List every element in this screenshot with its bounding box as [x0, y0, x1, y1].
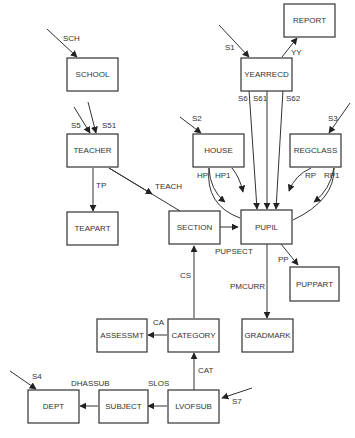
set-label-rp: RP [305, 171, 316, 180]
set-label-s62: S62 [286, 94, 301, 103]
record-assessmt: ASSESSMT [97, 319, 147, 352]
set-label-s5: S5 [71, 121, 81, 130]
set-label-ca: CA [153, 318, 165, 327]
svg-text:TEAPART: TEAPART [74, 224, 110, 233]
set-label-s2: S2 [192, 114, 202, 123]
record-teapart: TEAPART [67, 212, 118, 245]
set-label-s1: S1 [225, 43, 235, 52]
set-label-s7: S7 [232, 397, 242, 406]
record-report: REPORT [284, 4, 335, 37]
set-label-s51: S51 [102, 121, 117, 130]
svg-text:YEARRECD: YEARRECD [244, 70, 289, 79]
record-yearrecd: YEARRECD [241, 58, 292, 91]
svg-text:HOUSE: HOUSE [204, 146, 232, 155]
set-label-s6: S6 [238, 94, 248, 103]
record-puppart: PUPPART [290, 267, 339, 301]
record-pupil: PUPIL [241, 210, 292, 244]
set-label-s3: S3 [328, 114, 338, 123]
set-label-s61: S61 [253, 94, 268, 103]
record-lvofsub: LVOFSUB [168, 390, 219, 423]
svg-text:PUPIL: PUPIL [255, 223, 279, 232]
svg-text:CATEGORY: CATEGORY [171, 331, 216, 340]
set-label-teach: TEACH [155, 182, 182, 191]
set-label-yy: YY [291, 48, 302, 57]
record-teacher: TEACHER [67, 134, 118, 167]
record-gradmark: GRADMARK [242, 319, 293, 352]
svg-text:DEPT: DEPT [43, 402, 64, 411]
svg-text:LVOFSUB: LVOFSUB [175, 402, 212, 411]
set-label-tp: TP [96, 181, 106, 190]
data-structure-diagram: SCH S1 YY S5 S51 S6 S61 S62 S2 S3 TP TEA… [0, 0, 355, 438]
set-label-pmcurr: PMCURR [230, 282, 265, 291]
set-label-cat: CAT [198, 366, 214, 375]
set-label-s4: S4 [32, 372, 42, 381]
record-house: HOUSE [193, 134, 244, 167]
set-label-pupsect: PUPSECT [215, 247, 253, 256]
set-label-slos: SLOS [148, 379, 169, 388]
set-label-sch: SCH [63, 34, 80, 43]
svg-text:TEACHER: TEACHER [73, 146, 111, 155]
svg-text:PUPPART: PUPPART [296, 280, 333, 289]
svg-text:SECTION: SECTION [177, 223, 213, 232]
set-label-rp1: RP1 [324, 171, 340, 180]
svg-text:REPORT: REPORT [293, 16, 326, 25]
svg-text:SUBJECT: SUBJECT [105, 402, 142, 411]
set-label-hp1: HP1 [215, 171, 231, 180]
svg-text:REGCLASS: REGCLASS [294, 146, 338, 155]
record-category: CATEGORY [168, 319, 219, 352]
svg-text:ASSESSMT: ASSESSMT [100, 331, 144, 340]
record-section: SECTION [169, 211, 220, 244]
record-school: SCHOOL [67, 58, 118, 91]
set-label-dhassub: DHASSUB [71, 379, 110, 388]
set-label-hp: HP [197, 171, 208, 180]
svg-text:SCHOOL: SCHOOL [76, 70, 110, 79]
record-subject: SUBJECT [99, 390, 148, 423]
record-dept: DEPT [28, 390, 79, 423]
set-label-cs: CS [180, 271, 191, 280]
set-label-pp: PP [278, 255, 289, 264]
svg-text:GRADMARK: GRADMARK [244, 331, 291, 340]
record-regclass: REGCLASS [290, 134, 341, 167]
